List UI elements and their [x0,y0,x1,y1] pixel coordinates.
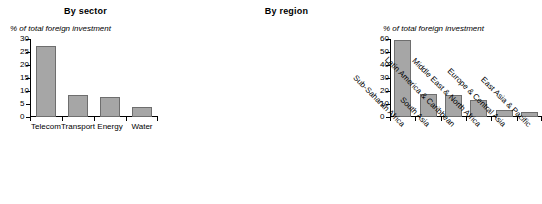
x-tick-label: Energy [97,123,122,131]
y-tick-label: 30 [20,35,22,43]
y-tick-label: 0 [20,113,22,121]
y-tick-label: 60 [380,35,382,43]
y-tick-label: 10 [20,87,22,95]
x-tick-label: Transport [61,123,95,131]
y-tick-label: 30 [380,74,382,82]
y-axis-line-by-sector [30,39,31,117]
x-tick-mark [94,117,95,121]
chart-panel-by-sector: By sector % of total foreign investment … [0,0,187,204]
chart-panel-by-region: By region % of total foreign investment … [187,0,374,204]
chart-title-by-sector: By sector [0,6,179,16]
y-tick-label: 20 [380,87,382,95]
y-tick-label: 25 [20,48,22,56]
plot-area-by-sector: 051015202530TelecomTransportEnergyWater [30,39,158,117]
y-axis-caption-by-region: % of total foreign investment [383,24,484,33]
chart-title-by-region: By region [193,6,380,16]
x-tick-mark [126,117,127,121]
y-tick-mark [26,104,30,105]
y-axis-caption-by-sector: % of total foreign investment [10,24,111,33]
y-tick-label: 40 [380,61,382,69]
x-tick-label: Water [131,123,152,131]
bar [36,46,56,118]
plot-area-by-region: 0102030405060Sub-Saharan AfricaSouth Asi… [390,39,542,117]
bar [68,95,88,117]
y-tick-label: 15 [20,74,22,82]
x-tick-mark [30,117,31,121]
y-tick-label: 0 [380,113,382,121]
x-tick-mark [157,117,158,121]
y-tick-label: 5 [20,100,22,108]
x-tick-mark [62,117,63,121]
x-tick-label: Telecom [31,123,61,131]
bar [132,107,152,117]
y-tick-label: 20 [20,61,22,69]
y-tick-label: 50 [380,48,382,56]
bar [100,97,120,117]
